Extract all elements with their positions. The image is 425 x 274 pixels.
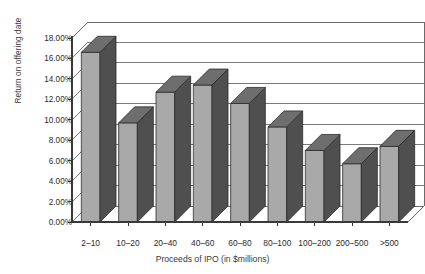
x-tick-label: 20–40 [154, 238, 177, 248]
y-tick-label: 12.00% [26, 95, 72, 104]
x-tick-label: 100–200 [298, 238, 331, 248]
y-tick-label: 6.00% [26, 156, 72, 165]
y-tick-label: 0.00% [26, 218, 72, 227]
y-tick-label: 16.00% [26, 54, 72, 63]
y-tick-label: 10.00% [26, 115, 72, 124]
y-tick-label: 8.00% [26, 136, 72, 145]
x-axis-tick-labels: 2–1010–2020–4040–6060–8080–100100–200200… [0, 232, 425, 248]
x-tick-label: 80–100 [263, 238, 291, 248]
x-tick-label: 10–20 [116, 238, 139, 248]
y-tick-label: 14.00% [26, 74, 72, 83]
x-tick-label: >500 [380, 238, 399, 248]
y-tick-label: 2.00% [26, 197, 72, 206]
x-tick-label: 40–60 [191, 238, 214, 248]
x-tick-label: 200–500 [336, 238, 369, 248]
bars-group [81, 36, 414, 222]
bar-chart: Return on offering date Proceeds of IPO … [0, 0, 425, 274]
y-tick-label: 4.00% [26, 177, 72, 186]
x-tick-label: 60–80 [228, 238, 251, 248]
y-tick-label: 18.00% [26, 34, 72, 43]
x-tick-label: 2–10 [81, 238, 100, 248]
